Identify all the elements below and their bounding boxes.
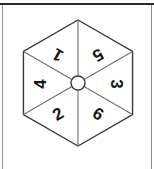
hexagon-spinner: 1 5 3 6 2 4 <box>0 0 154 169</box>
spinner-pivot-circle <box>71 76 85 90</box>
sector-label-3: 3 <box>107 79 126 88</box>
spinner-figure-canvas: 1 5 3 6 2 4 <box>0 0 154 169</box>
sector-label-4: 4 <box>31 79 50 89</box>
